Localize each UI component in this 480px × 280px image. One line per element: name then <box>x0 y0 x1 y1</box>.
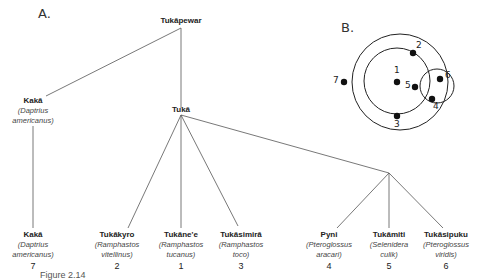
leaf-pyni: Pyni (Pteroglossus aracari) 4 <box>306 230 352 271</box>
leaf-sci-name: (Ramphastos <box>95 240 140 250</box>
node-upper-kaka: Kakā (Daptrius americanus) <box>12 96 53 126</box>
node-name: Kakā <box>12 96 53 106</box>
node-tuka: Tukā <box>172 105 190 115</box>
leaf-name: Pyni <box>306 230 352 240</box>
point-label-3: 3 <box>394 119 400 129</box>
leaf-sci-name: tucanus) <box>159 250 204 260</box>
leaf-number: 2 <box>95 261 140 271</box>
node-root: Tukāpewar <box>160 16 201 26</box>
leaf-sci-name: (Selenidera <box>370 240 408 250</box>
venn-circles <box>352 34 454 130</box>
point-label-6: 6 <box>445 70 451 80</box>
leaf-tukasipuku: Tukāsipuku (Pteroglossus viridis) 6 <box>423 230 469 271</box>
leaf-number: 6 <box>423 261 469 271</box>
leaf-number: 5 <box>370 261 408 271</box>
leaf-sci-name: (Pteroglossus <box>423 240 469 250</box>
point-label-5: 5 <box>405 80 411 90</box>
point-label-4: 4 <box>433 101 439 111</box>
leaf-sci-name: (Pteroglossus <box>306 240 352 250</box>
leaf-sci-name: (Ramphastos <box>159 240 204 250</box>
leaf-kaka: Kakā (Daptrius americanus) 7 <box>12 230 53 271</box>
point-label-2: 2 <box>416 40 422 50</box>
leaf-tukasimira: Tukāsimirā (Ramphastos toco) 3 <box>219 230 264 271</box>
point-label-7: 7 <box>333 75 339 85</box>
venn-points <box>341 50 443 119</box>
figure-caption: Figure 2.14 <box>40 270 86 280</box>
leaf-sci-name: toco) <box>219 250 264 260</box>
node-name: Tukā <box>172 105 190 115</box>
leaf-name: Kakā <box>12 230 53 240</box>
node-sci-name: (Daptrius <box>12 106 53 116</box>
leaf-tukakyro: Tukākyro (Ramphastos vitellinus) 2 <box>95 230 140 271</box>
leaf-name: Tukāsimirā <box>219 230 264 240</box>
leaf-number: 4 <box>306 261 352 271</box>
leaf-sci-name: (Ramphastos <box>219 240 264 250</box>
leaf-number: 3 <box>219 261 264 271</box>
node-name: Tukāpewar <box>160 16 201 26</box>
leaf-tukamiti: Tukāmiti (Selenidera culik) 5 <box>370 230 408 271</box>
leaf-sci-name: culik) <box>370 250 408 260</box>
leaf-name: Tukāne'e <box>159 230 204 240</box>
node-sci-name: americanus) <box>12 116 53 126</box>
leaf-name: Tukāsipuku <box>423 230 469 240</box>
leaf-sci-name: americanus) <box>12 250 53 260</box>
leaf-sci-name: (Daptrius <box>12 240 53 250</box>
point-label-1: 1 <box>394 65 400 75</box>
leaf-name: Tukākyro <box>95 230 140 240</box>
leaf-tukanee: Tukāne'e (Ramphastos tucanus) 1 <box>159 230 204 271</box>
leaf-name: Tukāmiti <box>370 230 408 240</box>
leaf-number: 1 <box>159 261 204 271</box>
leaf-sci-name: aracari) <box>306 250 352 260</box>
leaf-sci-name: vitellinus) <box>95 250 140 260</box>
leaf-sci-name: viridis) <box>423 250 469 260</box>
